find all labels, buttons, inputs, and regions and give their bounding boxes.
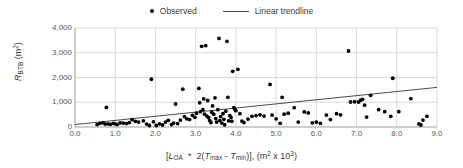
data-point [369, 93, 373, 97]
data-point [234, 109, 238, 113]
data-point [274, 117, 278, 121]
data-point [188, 118, 192, 122]
data-point [314, 120, 318, 124]
data-point [254, 114, 258, 118]
data-point [353, 100, 357, 104]
data-point [209, 121, 213, 125]
data-point [204, 44, 208, 48]
data-point [236, 67, 240, 71]
data-point [347, 49, 351, 53]
data-point [242, 121, 246, 125]
data-point [172, 121, 176, 125]
data-point [223, 123, 227, 127]
data-point [339, 113, 343, 117]
data-point [150, 77, 154, 81]
data-point [224, 109, 228, 113]
data-point [246, 117, 250, 121]
data-point [280, 95, 284, 99]
data-point [217, 36, 221, 40]
data-point [195, 111, 199, 115]
data-point [329, 118, 333, 122]
plot-area [0, 0, 463, 168]
data-point [104, 106, 108, 110]
data-point [292, 106, 296, 110]
data-point [152, 120, 156, 124]
data-point [200, 44, 204, 48]
data-point [214, 117, 218, 121]
data-point [286, 111, 290, 115]
data-point [201, 108, 205, 112]
data-point [250, 114, 254, 118]
data-point [154, 124, 158, 128]
data-point [361, 97, 365, 101]
data-point [230, 119, 234, 123]
data-point [127, 121, 131, 125]
data-point [161, 123, 165, 127]
data-point [365, 115, 369, 119]
data-point [363, 103, 367, 107]
data-point [419, 123, 423, 127]
data-point [137, 120, 141, 124]
data-point [391, 76, 395, 80]
data-point [377, 108, 381, 112]
data-point [166, 118, 170, 122]
data-point [226, 95, 230, 99]
data-point [282, 112, 286, 116]
data-point [118, 121, 122, 125]
data-point [174, 102, 178, 106]
data-point [389, 114, 393, 118]
data-point [197, 86, 201, 90]
data-point [181, 87, 185, 91]
data-point [225, 39, 229, 43]
data-point [425, 114, 429, 118]
data-point [324, 113, 328, 117]
data-point [296, 120, 300, 124]
data-point [262, 114, 266, 118]
data-point [133, 119, 137, 123]
data-point [98, 121, 102, 125]
data-point [141, 119, 145, 123]
data-point [212, 112, 216, 116]
data-point [178, 118, 182, 122]
data-point [238, 112, 242, 116]
data-point [148, 124, 152, 128]
data-point [409, 97, 413, 101]
data-point [216, 108, 220, 112]
data-point [421, 118, 425, 122]
trendline [75, 87, 437, 124]
data-point [229, 116, 233, 120]
data-point [198, 101, 202, 105]
data-point [383, 110, 387, 114]
data-point [349, 100, 353, 104]
chart-figure: Observed Linear trendline RBTB (m2) [LOA… [0, 0, 463, 168]
data-point [335, 112, 339, 116]
data-point [130, 118, 134, 122]
data-point [310, 121, 314, 125]
data-point [270, 113, 274, 117]
data-point [202, 97, 206, 101]
data-point [222, 117, 226, 121]
data-point [258, 113, 262, 117]
data-point [268, 83, 272, 87]
data-point [318, 121, 322, 125]
data-point [219, 115, 223, 119]
data-point [306, 111, 310, 115]
data-point [227, 119, 231, 123]
data-point [211, 104, 215, 108]
data-point [213, 96, 217, 100]
data-point [231, 69, 235, 73]
data-point [278, 121, 282, 125]
data-point [206, 99, 210, 103]
data-point [397, 110, 401, 114]
data-point [193, 115, 197, 119]
data-point [121, 121, 125, 125]
data-point [176, 122, 180, 126]
data-point [302, 110, 306, 114]
